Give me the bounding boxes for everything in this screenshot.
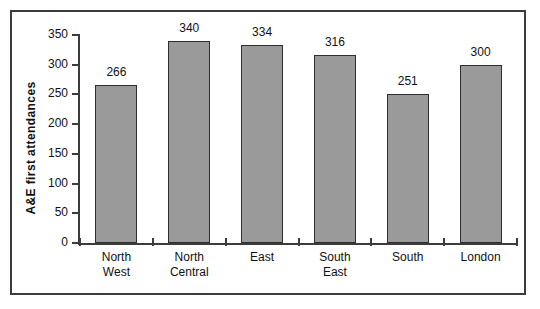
bar-value-label: 251 [378,75,438,88]
x-axis-tick [298,238,300,246]
y-axis-tick [72,212,79,214]
y-axis-tick [72,64,79,66]
y-axis-tick [72,183,79,185]
bar[interactable] [314,55,356,243]
bar-chart: A&E first attendances 050100150200250300… [0,0,540,309]
y-axis-tick-label-text: 100 [24,177,68,189]
y-axis-tick [72,242,79,244]
y-axis-tick-label-text: 0 [24,236,68,248]
x-axis-category-label-line: Central [144,265,234,280]
x-axis-category-label-line: East [290,265,380,280]
bar-value-label: 316 [305,36,365,49]
y-axis-tick [72,153,79,155]
y-axis-tick-label: 0 [22,236,68,248]
y-axis-tick-label-text: 150 [24,147,68,159]
y-axis-tick-label: 250 [22,87,68,99]
x-axis-category-label: London [436,250,526,265]
bar[interactable] [460,65,502,243]
bar-value-label: 334 [232,26,292,39]
bar[interactable] [168,41,210,243]
y-axis-tick-label: 150 [22,147,68,159]
y-axis-tick [72,34,79,36]
y-axis-tick [72,93,79,95]
y-axis-tick-label: 200 [22,117,68,129]
y-axis-tick-label-text: 50 [24,206,68,218]
bar-value-label: 300 [451,46,511,59]
x-axis-tick [152,238,154,246]
y-axis-tick-label: 50 [22,206,68,218]
y-axis-tick [72,123,79,125]
x-axis-tick [516,238,518,246]
y-axis-tick-label-text: 200 [24,117,68,129]
y-axis-tick-label: 350 [22,28,68,40]
x-axis-tick [225,238,227,246]
x-axis-tick [443,238,445,246]
x-axis-tick [370,238,372,246]
x-axis-tick [79,238,81,246]
bar-value-label: 340 [159,22,219,35]
y-axis-tick-label-text: 350 [24,28,68,40]
y-axis-tick-label-text: 250 [24,87,68,99]
bar[interactable] [241,45,283,243]
bar[interactable] [95,85,137,243]
y-axis-tick-label-text: 300 [24,58,68,70]
y-axis-tick-label: 100 [22,177,68,189]
bar-value-label: 266 [86,66,146,79]
x-axis-category-label-line: London [436,250,526,265]
bar[interactable] [387,94,429,243]
y-axis-tick-label: 300 [22,58,68,70]
